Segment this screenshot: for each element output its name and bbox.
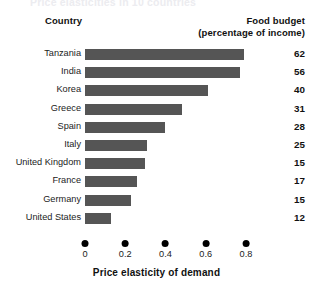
bar-track: [85, 176, 256, 187]
row-value-food-budget: 17: [261, 175, 305, 186]
chart-row: India56: [0, 64, 313, 82]
bar: [85, 67, 240, 78]
row-label-country: Korea: [56, 84, 81, 94]
column-header-country: Country: [45, 15, 82, 26]
row-value-food-budget: 25: [261, 139, 305, 150]
bar: [85, 85, 208, 96]
row-label-country: Italy: [64, 139, 81, 149]
bar: [85, 104, 182, 115]
x-axis-title: Price elasticity of demand: [0, 267, 313, 278]
chart-row: Italy25: [0, 137, 313, 155]
bar-track: [85, 85, 256, 96]
chart-rows: Tanzania62India56Korea40Greece31Spain28I…: [0, 46, 313, 228]
chart-row: Spain28: [0, 119, 313, 137]
row-label-country: India: [61, 66, 81, 76]
row-value-food-budget: 56: [261, 66, 305, 77]
bar-track: [85, 49, 256, 60]
column-header-food-budget-line2: (percentage of income): [198, 27, 305, 39]
x-axis-tick-label: 0.8: [240, 249, 253, 259]
chart-row: France17: [0, 173, 313, 191]
bar: [85, 195, 131, 206]
row-value-food-budget: 40: [261, 84, 305, 95]
x-axis-tick: 0.6: [199, 240, 212, 259]
bar: [85, 176, 137, 187]
x-axis-tick-dot: [82, 240, 89, 247]
row-label-country: Spain: [58, 121, 82, 131]
chart-row: Korea40: [0, 82, 313, 100]
row-label-country: France: [52, 175, 81, 185]
bar: [85, 49, 244, 60]
column-header-food-budget-line1: Food budget: [198, 15, 305, 27]
chart-figure: Price elasticities in 10 countries Count…: [0, 0, 313, 292]
x-axis-tick: 0.8: [240, 240, 253, 259]
x-axis-tick: 0.4: [159, 240, 172, 259]
bar-track: [85, 122, 256, 133]
x-axis-tick-dot: [242, 240, 249, 247]
row-label-country: Germany: [43, 194, 81, 204]
bar: [85, 140, 147, 151]
bar-track: [85, 195, 256, 206]
chart-row: United Kingdom15: [0, 155, 313, 173]
chart-row: United States12: [0, 210, 313, 228]
row-value-food-budget: 31: [261, 103, 305, 114]
x-axis-tick: 0: [82, 240, 89, 259]
x-axis-tick-dot: [122, 240, 129, 247]
row-label-country: United Kingdom: [16, 157, 81, 167]
chart-row: Greece31: [0, 101, 313, 119]
x-axis-tick-dot: [202, 240, 209, 247]
bar-track: [85, 158, 256, 169]
row-label-country: United States: [26, 212, 81, 222]
bar-track: [85, 140, 256, 151]
bar: [85, 158, 145, 169]
x-axis-tick: 0.2: [119, 240, 132, 259]
row-value-food-budget: 62: [261, 48, 305, 59]
chart-row: Germany15: [0, 192, 313, 210]
figure-title: Price elasticities in 10 countries: [30, 0, 275, 7]
x-axis-tick-label: 0.6: [199, 249, 212, 259]
bar-track: [85, 104, 256, 115]
x-axis-tick-label: 0: [82, 249, 89, 259]
x-axis-tick-label: 0.4: [159, 249, 172, 259]
x-axis: 00.20.40.60.8 Price elasticity of demand: [0, 240, 313, 292]
x-axis-tick-dot: [162, 240, 169, 247]
column-header-food-budget: Food budget (percentage of income): [198, 15, 305, 39]
x-axis-tick-label: 0.2: [119, 249, 132, 259]
row-value-food-budget: 12: [261, 212, 305, 223]
bar-track: [85, 67, 256, 78]
bar: [85, 213, 111, 224]
row-value-food-budget: 28: [261, 121, 305, 132]
row-label-country: Tanzania: [44, 48, 81, 58]
row-value-food-budget: 15: [261, 157, 305, 168]
chart-row: Tanzania62: [0, 46, 313, 64]
row-value-food-budget: 15: [261, 194, 305, 205]
row-label-country: Greece: [51, 103, 81, 113]
bar: [85, 122, 165, 133]
bar-track: [85, 213, 256, 224]
